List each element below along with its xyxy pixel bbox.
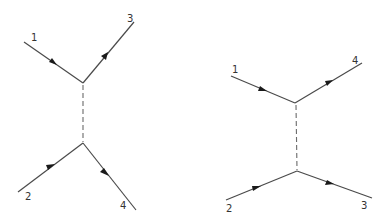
particle-label-3: 3 (361, 200, 367, 211)
particle-label-4: 4 (352, 55, 358, 66)
particle-label-1: 1 (31, 32, 37, 43)
arrow-icon (252, 186, 261, 191)
arrow-icon (100, 168, 109, 176)
right-feynman-diagram: 1 4 2 3 (226, 55, 372, 214)
particle-label-2: 2 (25, 191, 31, 202)
particle-label-2: 2 (226, 203, 232, 214)
outgoing-line-4 (83, 143, 136, 210)
outgoing-line-3 (297, 171, 372, 198)
feynman-diagrams: 1 3 2 4 1 4 2 3 (0, 0, 389, 221)
left-feynman-diagram: 1 3 2 4 (18, 13, 136, 211)
particle-label-1: 1 (232, 64, 238, 75)
arrow-icon (258, 86, 267, 91)
arrow-icon (101, 52, 108, 60)
outgoing-line-3 (83, 22, 134, 83)
incoming-line-2 (226, 171, 297, 200)
particle-label-3: 3 (127, 13, 133, 24)
particle-label-4: 4 (120, 200, 126, 211)
propagator-dashed-line (296, 105, 297, 170)
arrow-icon (325, 80, 333, 86)
arrow-icon (49, 58, 57, 65)
arrow-icon (46, 164, 55, 170)
